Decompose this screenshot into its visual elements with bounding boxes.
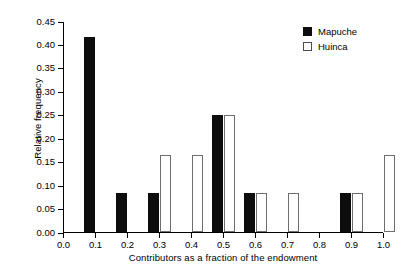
legend-label-huinca: Huinca (318, 41, 348, 52)
x-axis-tick-label: 1.0 (377, 239, 390, 250)
x-axis-tick: 0.1 (95, 233, 96, 238)
y-axis-tick-label: 0.10 (37, 180, 56, 191)
y-axis-tick-label: 0.35 (37, 62, 56, 73)
bar-mapuche-0.5 (212, 115, 223, 232)
x-axis-tick: 0.7 (287, 233, 288, 238)
x-axis-tick-label: 0.1 (89, 239, 102, 250)
x-axis-tick: 0.2 (127, 233, 128, 238)
y-axis-tick-label: 0.45 (37, 16, 56, 27)
bar-huinca-0.5 (224, 115, 235, 232)
y-axis-tick: 0.05 (58, 209, 63, 210)
y-axis-tick: 0.35 (58, 68, 63, 69)
chart-legend: Mapuche Huinca (303, 24, 357, 54)
x-axis-tick-label: 0.6 (249, 239, 262, 250)
relative-frequency-bar-chart: Relative frequency 0.000.050.100.150.200… (0, 0, 401, 273)
bar-mapuche-0.2 (116, 193, 127, 232)
y-axis-tick-label: 0.40 (37, 39, 56, 50)
y-axis-tick: 0.10 (58, 186, 63, 187)
bar-huinca-0.6 (256, 193, 267, 232)
x-axis-tick: 0.4 (191, 233, 192, 238)
bar-mapuche-0.3 (148, 193, 159, 232)
legend-swatch-mapuche-icon (303, 27, 312, 36)
x-axis-title: Contributors as a fraction of the endowm… (63, 252, 383, 263)
y-axis-tick-label: 0.25 (37, 109, 56, 120)
x-axis-tick-label: 0.4 (185, 239, 198, 250)
legend-item-huinca: Huinca (303, 39, 357, 54)
x-axis-tick: 1.0 (383, 233, 384, 238)
y-axis-tick-label: 0.15 (37, 156, 56, 167)
x-axis-tick: 0.6 (255, 233, 256, 238)
legend-label-mapuche: Mapuche (318, 26, 357, 37)
x-axis-tick: 0.5 (223, 233, 224, 238)
x-axis-tick-label: 0.7 (281, 239, 294, 250)
x-axis-tick: 0.9 (351, 233, 352, 238)
bar-mapuche-0.1 (84, 37, 95, 232)
y-axis-tick-label: 0.20 (37, 133, 56, 144)
y-axis-tick: 0.30 (58, 92, 63, 93)
y-axis-tick: 0.20 (58, 139, 63, 140)
y-axis-line (63, 22, 64, 233)
x-axis-tick-label: 0.3 (153, 239, 166, 250)
x-axis-tick-label: 0.0 (57, 239, 70, 250)
bar-mapuche-0.6 (244, 193, 255, 232)
y-axis-tick: 0.40 (58, 45, 63, 46)
y-axis-tick-label: 0.05 (37, 203, 56, 214)
x-axis-tick-label: 0.5 (217, 239, 230, 250)
y-axis-tick-label: 0.30 (37, 86, 56, 97)
x-axis-tick-label: 0.9 (345, 239, 358, 250)
bar-huinca-0.9 (352, 193, 363, 232)
bar-huinca-0.3 (160, 155, 171, 232)
x-axis-tick: 0.3 (159, 233, 160, 238)
legend-swatch-huinca-icon (303, 42, 312, 51)
x-axis-tick-label: 0.8 (313, 239, 326, 250)
y-axis-tick-label: 0.00 (37, 227, 56, 238)
y-axis-tick: 0.45 (58, 22, 63, 23)
bar-huinca-0.4 (192, 155, 203, 232)
x-axis-tick: 0.0 (63, 233, 64, 238)
y-axis-tick: 0.25 (58, 115, 63, 116)
bar-mapuche-0.9 (340, 193, 351, 232)
x-axis-tick: 0.8 (319, 233, 320, 238)
y-axis-tick: 0.15 (58, 162, 63, 163)
legend-item-mapuche: Mapuche (303, 24, 357, 39)
bar-huinca-0.7 (288, 193, 299, 232)
bar-huinca-1.0 (384, 155, 395, 232)
x-axis-tick-label: 0.2 (121, 239, 134, 250)
